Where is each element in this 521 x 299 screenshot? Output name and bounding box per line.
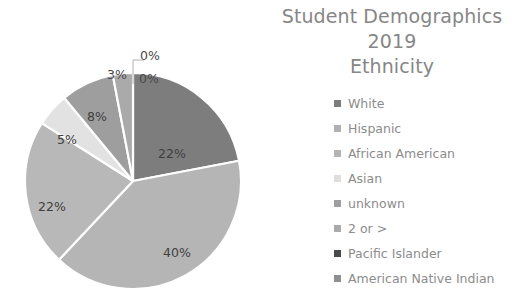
pie-svg — [0, 0, 268, 299]
chart-legend: WhiteHispanicAfrican AmericanAsianunknow… — [334, 91, 520, 291]
legend-item-label: Asian — [348, 172, 382, 186]
legend-swatch-icon — [334, 200, 341, 207]
pie-plot-area: 22%40%22%5%8%3%0%0% — [0, 0, 268, 299]
legend-swatch-icon — [334, 250, 341, 257]
legend-swatch-icon — [334, 275, 341, 282]
pie-slice-label-7: 0% — [140, 49, 160, 62]
legend-item-6[interactable]: Pacific Islander — [334, 241, 520, 266]
legend-item-1[interactable]: Hispanic — [334, 116, 520, 141]
chart-title-line-2: 2019 — [268, 29, 516, 54]
pie-slice-label-1: 40% — [163, 246, 191, 259]
legend-item-label: Pacific Islander — [348, 247, 442, 261]
chart-title-line-1: Student Demographics — [268, 4, 516, 29]
legend-item-4[interactable]: unknown — [334, 191, 520, 216]
legend-item-label: 2 or > — [348, 222, 387, 236]
legend-item-label: unknown — [348, 197, 405, 211]
legend-item-3[interactable]: Asian — [334, 166, 520, 191]
legend-item-label: White — [348, 97, 384, 111]
chart-title: Student Demographics 2019 Ethnicity — [268, 4, 516, 79]
legend-item-7[interactable]: American Native Indian — [334, 266, 520, 291]
pie-slice-label-3: 5% — [57, 133, 77, 146]
legend-item-5[interactable]: 2 or > — [334, 216, 520, 241]
legend-swatch-icon — [334, 225, 341, 232]
legend-item-0[interactable]: White — [334, 91, 520, 116]
legend-swatch-icon — [334, 100, 341, 107]
legend-item-label: Hispanic — [348, 122, 401, 136]
pie-slice-label-4: 8% — [87, 110, 107, 123]
legend-swatch-icon — [334, 150, 341, 157]
pie-slice-label-2: 22% — [38, 200, 66, 213]
pie-chart-figure: Student Demographics 2019 Ethnicity 22%4… — [0, 0, 521, 299]
pie-slice-label-5: 3% — [107, 68, 127, 81]
legend-item-label: African American — [348, 147, 455, 161]
legend-swatch-icon — [334, 125, 341, 132]
pie-slice-group — [25, 73, 241, 289]
pie-slice-label-6: 0% — [139, 72, 159, 85]
legend-swatch-icon — [334, 175, 341, 182]
legend-item-label: American Native Indian — [348, 272, 495, 286]
chart-title-line-3: Ethnicity — [268, 54, 516, 79]
legend-item-2[interactable]: African American — [334, 141, 520, 166]
pie-slice-label-0: 22% — [158, 147, 186, 160]
